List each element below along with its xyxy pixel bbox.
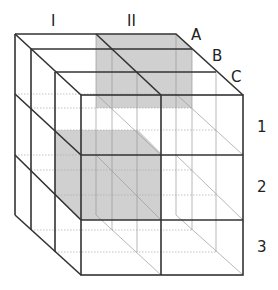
row-label-3: 3	[257, 238, 267, 256]
upper-shaded-plane	[96, 34, 192, 108]
depth-label-A: A	[191, 26, 202, 44]
cube-diagram: I II A B C 1 2 3	[0, 0, 278, 290]
row-label-2: 2	[257, 178, 267, 196]
column-label-II: II	[127, 12, 136, 30]
row-label-1: 1	[257, 118, 267, 136]
depth-label-B: B	[212, 47, 222, 65]
lower-shaded-plane	[55, 130, 161, 220]
depth-label-C: C	[231, 68, 241, 86]
column-label-I: I	[51, 12, 55, 30]
